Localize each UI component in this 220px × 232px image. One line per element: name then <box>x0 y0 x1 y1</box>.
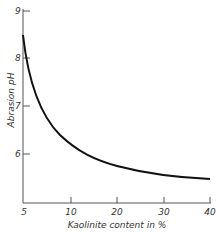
data-curve <box>23 35 210 179</box>
y-axis: 9 8 7 6 Abrasion pH <box>6 6 30 203</box>
y-tick-6: 6 <box>15 149 21 159</box>
x-tick-40: 40 <box>204 207 216 217</box>
y-axis-label: Abrasion pH <box>6 72 16 128</box>
y-tick-9: 9 <box>15 6 21 16</box>
x-axis-label: Kaolinite content in % <box>68 220 167 230</box>
x-tick-30: 30 <box>158 207 170 217</box>
x-tick-5: 5 <box>21 207 27 217</box>
x-tick-20: 20 <box>111 207 123 217</box>
y-tick-8: 8 <box>15 53 21 63</box>
x-tick-10: 10 <box>65 207 77 217</box>
chart: 9 8 7 6 Abrasion pH 5 10 20 30 40 Kaolin… <box>0 0 220 232</box>
x-axis: 5 10 20 30 40 Kaolinite content in % <box>21 197 216 230</box>
